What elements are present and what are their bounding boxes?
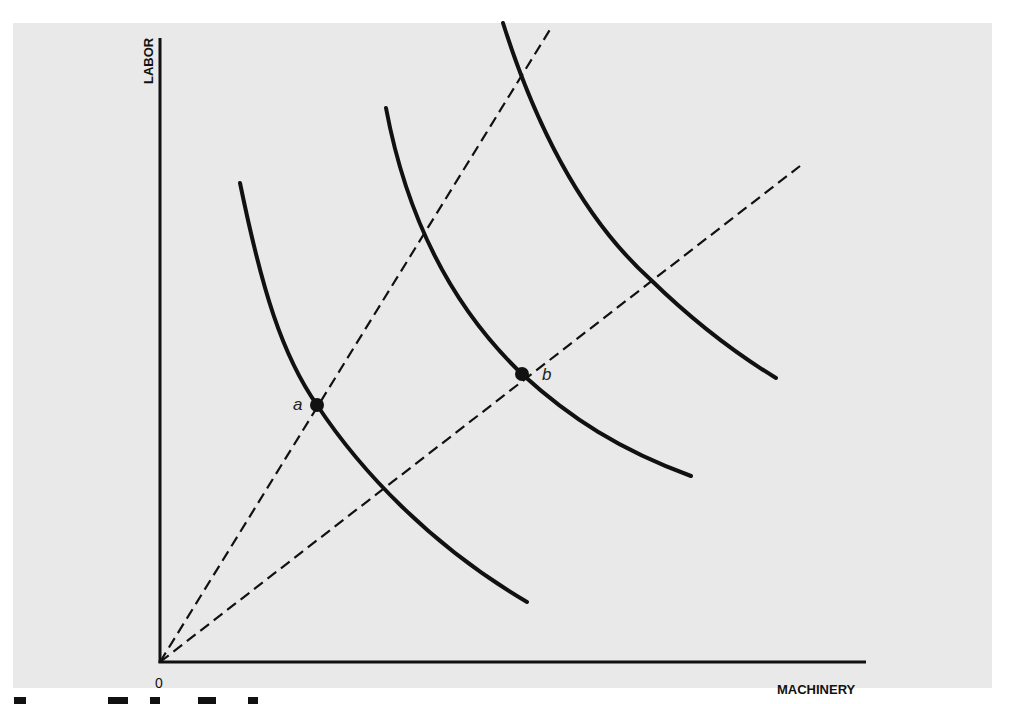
ray-shallow (160, 166, 800, 662)
isoquant-3 (503, 23, 776, 378)
axes (159, 38, 867, 663)
caption-glyph (150, 697, 160, 704)
isoquant-2 (386, 108, 691, 476)
isoquant-diagram: a b LABOR MACHINERY 0 (0, 0, 1014, 704)
point-b-marker (515, 367, 529, 381)
point-a-marker (310, 398, 324, 412)
caption-glyph (108, 697, 128, 704)
expansion-rays (160, 28, 800, 662)
point-b-label: b (542, 365, 551, 384)
origin-label: 0 (155, 675, 163, 691)
caption-glyph-tops (14, 697, 258, 704)
caption-glyph (248, 697, 258, 704)
caption-glyph (14, 697, 26, 704)
y-axis-label: LABOR (141, 37, 156, 84)
figure-caption-cropped (0, 694, 1014, 704)
isoquant-1 (240, 183, 527, 602)
isoquants (240, 23, 776, 602)
point-a-label: a (293, 395, 302, 414)
caption-glyph (198, 697, 216, 704)
